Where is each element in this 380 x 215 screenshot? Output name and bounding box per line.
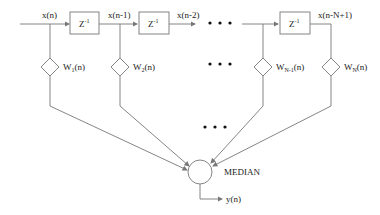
svg-text:WN(n): WN(n): [344, 62, 367, 73]
weight-diamond-1: [41, 58, 59, 76]
tap-1: W1(n): [41, 24, 187, 170]
ellipsis-bottom: [203, 125, 226, 128]
median-label: MEDIAN: [224, 167, 260, 177]
delay-block-n: Z-1: [280, 12, 310, 34]
label-x-n: x(n): [42, 10, 57, 20]
label-x-n-2: x(n-2): [177, 10, 200, 20]
tap-2: W2(n): [111, 24, 189, 166]
label-x-n-N+1: x(n-N+1): [318, 10, 352, 20]
median-filter-diagram: Z-1 Z-1 Z-1 x(n) x(n-1) x(n-2) x(n-N+1) …: [0, 0, 380, 215]
median-combiner: MEDIAN: [188, 160, 260, 184]
svg-text:W1(n): W1(n): [63, 62, 85, 73]
ellipsis-top: [208, 21, 231, 24]
label-x-n-1: x(n-1): [108, 10, 131, 20]
delay-block-1: Z-1: [70, 12, 99, 34]
delay-block-2: Z-1: [139, 12, 169, 34]
output: y(n): [200, 184, 241, 204]
weight-diamond-n: [322, 58, 340, 76]
ellipsis-middle: [208, 62, 231, 65]
tap-n: WN(n): [213, 24, 367, 166]
svg-text:W2(n): W2(n): [133, 62, 155, 73]
svg-text:WN-1(n): WN-1(n): [276, 62, 304, 73]
tap-n-minus-1: WN-1(n): [211, 24, 304, 163]
weight-diamond-2: [111, 58, 129, 76]
output-label: y(n): [226, 194, 241, 204]
weight-diamond-n-minus-1: [254, 58, 272, 76]
